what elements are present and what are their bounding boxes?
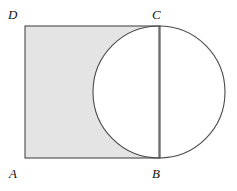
- geometry-canvas: [0, 0, 237, 191]
- vertex-label-d: D: [8, 8, 17, 21]
- vertex-label-a: A: [9, 167, 17, 180]
- vertex-label-c: C: [152, 8, 161, 21]
- geometry-figure: D C A B: [0, 0, 237, 191]
- vertex-label-b: B: [152, 167, 160, 180]
